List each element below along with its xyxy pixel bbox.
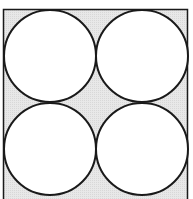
circle-top-right xyxy=(96,10,188,102)
circle-top-left xyxy=(4,10,96,102)
circle-bottom-right xyxy=(96,103,188,195)
circle-bottom-left xyxy=(4,103,96,195)
circle-packing-diagram xyxy=(0,0,193,199)
